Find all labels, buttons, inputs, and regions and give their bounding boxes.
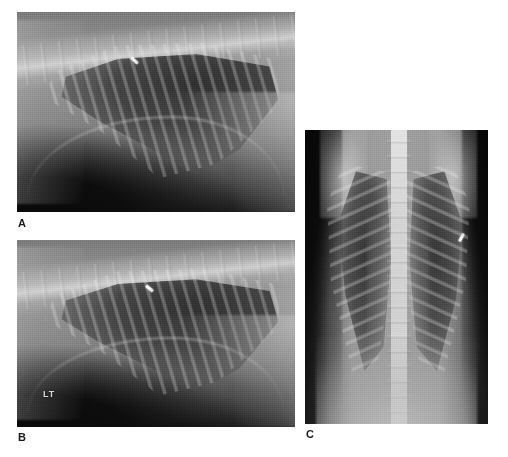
radiograph-image-a[interactable] [17, 12, 295, 212]
panel-b[interactable]: LT B [17, 240, 295, 427]
radiograph-image-b[interactable]: LT [17, 240, 295, 427]
panel-label-b: B [18, 432, 26, 443]
panel-label-c: C [306, 429, 314, 440]
xray-diaphragm [316, 336, 477, 424]
panel-label-a: A [18, 218, 26, 229]
radiograph-image-c[interactable] [305, 130, 488, 424]
panel-a[interactable]: A [17, 12, 295, 212]
radiograph-figure: A LT B [0, 0, 508, 457]
position-marker-lt: LT [43, 390, 55, 399]
panel-c[interactable]: C [305, 130, 488, 424]
